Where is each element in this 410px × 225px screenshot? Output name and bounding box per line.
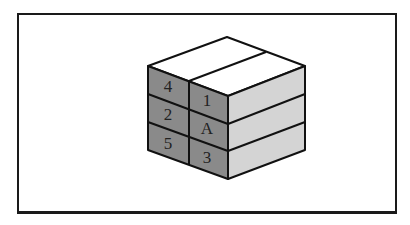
cube-label-4: 4: [164, 77, 173, 96]
cube-label-3: 3: [203, 148, 212, 167]
cube-label-A: A: [201, 119, 214, 138]
cube-label-1: 1: [203, 91, 212, 110]
cube-label-2: 2: [164, 105, 173, 124]
cube-diagram: 4 2 5 1 A 3: [0, 0, 410, 225]
cube-label-5: 5: [164, 134, 173, 153]
